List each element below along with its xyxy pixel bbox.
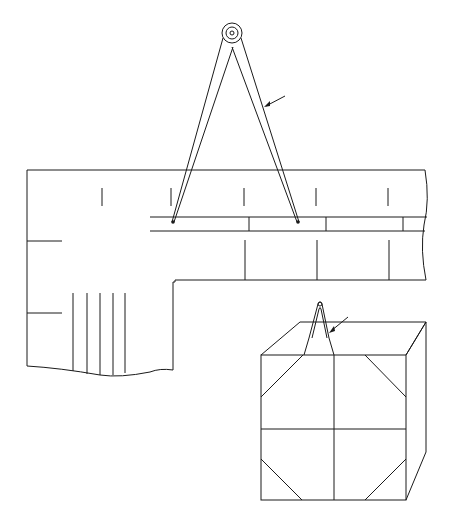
lower-scale-numbers [245,240,389,280]
dividers-left-leg-outer [172,38,223,222]
dividers-left-point [171,220,175,224]
dividers-right-point [296,220,300,224]
dividers-right-leg-outer [241,38,299,222]
dividers-left-leg-inner [174,47,233,222]
cube-right-face [406,322,426,500]
dividers-pivot-inner [226,27,238,39]
dividers-leader-arrowhead [264,101,270,107]
cube-diagonal-top-left [261,355,303,397]
cube-diagonal-bottom-left [261,459,302,500]
left-scale-numbers [27,241,62,313]
dividers-pivot-outer [222,23,242,43]
dividers-pivot-screw [230,31,234,35]
dividers-on-ruler [171,23,300,224]
cube-diagonal-top-right [365,355,406,397]
cube-top-face [261,322,426,355]
vernier-strip [150,217,427,231]
cube-dividers-inner [312,308,327,339]
cube-dividers-arrowhead [329,326,335,333]
top-scale-numbers [102,188,388,206]
figure-canvas [0,0,452,527]
cube-diagram [261,302,426,500]
framing-square-ruler [27,170,427,376]
cube-dividers-pivot [318,302,322,306]
leg-table [73,293,125,375]
cube-diagonal-bottom-right [365,459,406,500]
dividers-right-leg-inner [232,47,297,222]
